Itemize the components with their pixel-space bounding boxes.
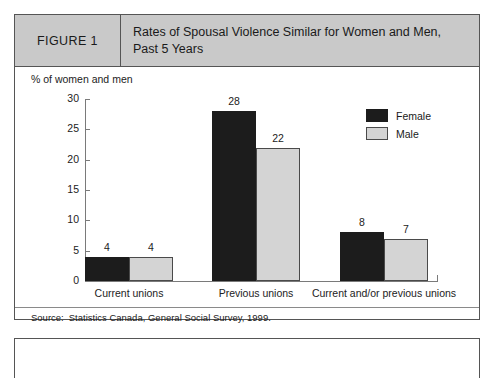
bar-value-label: 7 — [384, 223, 428, 235]
figure-title-cell: Rates of Spousal Violence Similar for Wo… — [121, 15, 479, 66]
next-figure-box-partial — [14, 338, 480, 378]
y-axis-tick-label: 10 — [67, 213, 79, 225]
legend-swatch-male-icon — [366, 127, 388, 140]
figure-number-cell: FIGURE 1 — [15, 15, 121, 66]
bar-value-label: 4 — [85, 241, 129, 253]
legend-label-male: Male — [396, 128, 419, 140]
source-divider — [15, 307, 479, 308]
bar-value-label: 22 — [256, 132, 300, 144]
bar-value-label: 8 — [340, 216, 384, 228]
y-axis-tick-mark — [85, 129, 90, 130]
figure-header-banner: FIGURE 1 Rates of Spousal Violence Simil… — [15, 15, 479, 67]
source-text: Statistics Canada, General Social Survey… — [69, 312, 271, 323]
bar-value-label: 28 — [212, 95, 256, 107]
bar-female — [212, 111, 256, 281]
figure-number-label: FIGURE 1 — [37, 34, 98, 48]
category-label: Current and/or previous unions — [300, 287, 468, 299]
y-axis-label: % of women and men — [31, 73, 133, 85]
legend-item-male: Male — [366, 127, 431, 140]
y-axis-tick-mark — [85, 99, 90, 100]
y-axis-tick-mark — [85, 160, 90, 161]
bar-female — [85, 257, 129, 281]
legend-item-female: Female — [366, 109, 431, 122]
figure-container: FIGURE 1 Rates of Spousal Violence Simil… — [14, 14, 480, 320]
bar-male — [256, 148, 300, 281]
y-axis-tick-mark — [85, 190, 90, 191]
legend-swatch-female-icon — [366, 109, 388, 122]
source-label: Source: — [31, 312, 64, 323]
y-axis-tick-label: 5 — [73, 244, 79, 256]
x-axis-line — [85, 281, 438, 282]
x-axis-end-tick — [437, 275, 438, 282]
chart-plot-area: % of women and men 051015202530 44282287… — [15, 67, 479, 307]
y-axis-tick-label: 15 — [67, 183, 79, 195]
bar-value-label: 4 — [129, 241, 173, 253]
y-axis-tick-label: 0 — [73, 274, 79, 286]
source-line: Source:Statistics Canada, General Social… — [31, 312, 271, 323]
bar-male — [384, 239, 428, 281]
y-axis-tick-mark — [85, 220, 90, 221]
legend-label-female: Female — [396, 110, 431, 122]
chart-legend: Female Male — [366, 109, 431, 145]
figure-title: Rates of Spousal Violence Similar for Wo… — [133, 24, 469, 58]
bar-female — [340, 232, 384, 281]
y-axis-tick-label: 30 — [67, 92, 79, 104]
bar-male — [129, 257, 173, 281]
y-axis-tick-label: 20 — [67, 153, 79, 165]
y-axis-tick-label: 25 — [67, 122, 79, 134]
